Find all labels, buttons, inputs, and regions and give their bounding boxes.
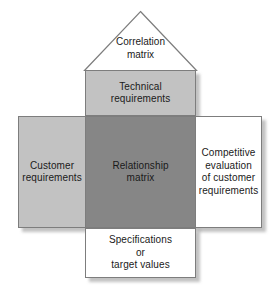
competitive-evaluation-region[interactable]: Competitive evaluation of customer requi… bbox=[195, 116, 262, 228]
technical-requirements-label: Technical requirements bbox=[109, 81, 173, 106]
competitive-evaluation-label: Competitive evaluation of customer requi… bbox=[197, 147, 261, 197]
technical-requirements-region[interactable]: Technical requirements bbox=[85, 70, 196, 116]
relationship-matrix-label: Relationship matrix bbox=[110, 160, 170, 185]
house-of-quality-diagram: Correlation matrix Technical requirement… bbox=[0, 0, 279, 288]
specifications-label: Specifications or target values bbox=[107, 234, 174, 272]
specifications-region[interactable]: Specifications or target values bbox=[85, 228, 196, 278]
relationship-matrix-region[interactable]: Relationship matrix bbox=[85, 116, 196, 228]
customer-requirements-region[interactable]: Customer requirements bbox=[18, 116, 86, 228]
customer-requirements-label: Customer requirements bbox=[20, 160, 84, 185]
correlation-matrix-label: Correlation matrix bbox=[83, 36, 198, 61]
correlation-matrix-region[interactable]: Correlation matrix bbox=[83, 10, 198, 72]
